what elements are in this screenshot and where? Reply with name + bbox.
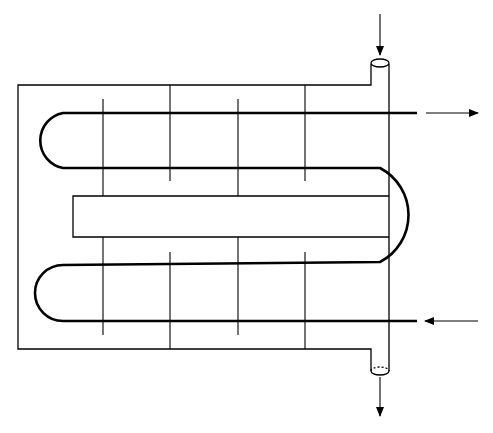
heat-exchanger-diagram [0, 0, 493, 433]
shell-outlet-nozzle [371, 367, 389, 375]
arrows [380, 14, 478, 416]
shell-inlet-nozzle [371, 59, 389, 67]
shell [18, 64, 389, 371]
tube [35, 113, 417, 321]
baffles [103, 85, 305, 349]
